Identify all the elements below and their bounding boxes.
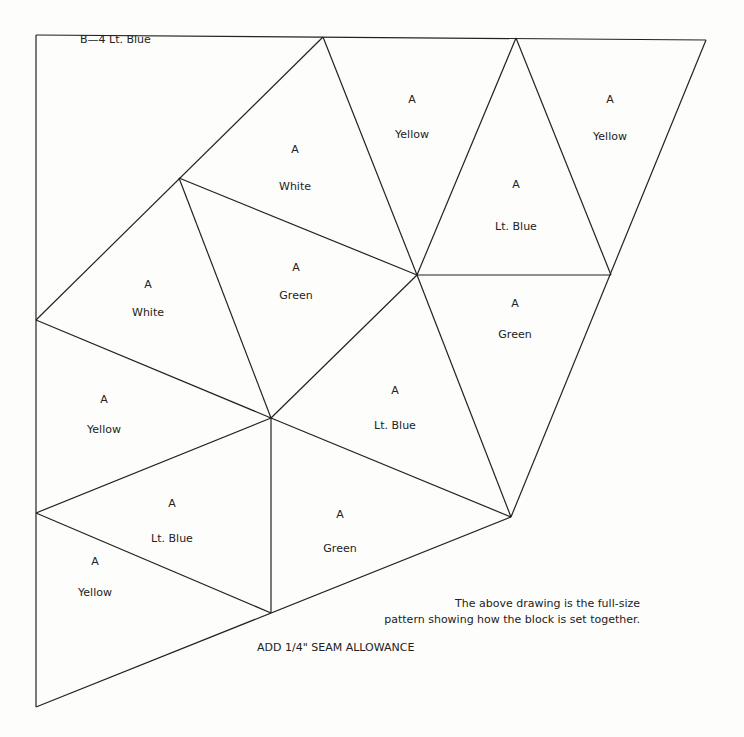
piece-color: Lt. Blue bbox=[151, 532, 193, 545]
piece-color: Lt. Blue bbox=[495, 220, 537, 233]
piece-letter: A bbox=[408, 93, 416, 106]
block-title: B—4 Lt. Blue bbox=[80, 33, 151, 46]
piece-letter: A bbox=[606, 93, 614, 106]
pattern-note: The above drawing is the full-size patte… bbox=[360, 596, 640, 628]
piece-letter: A bbox=[292, 261, 300, 274]
piece-letter: A bbox=[100, 393, 108, 406]
piece-color: Green bbox=[323, 542, 356, 555]
piece-letter: A bbox=[168, 497, 176, 510]
piece-letter: A bbox=[91, 555, 99, 568]
seam-allowance-note: ADD 1/4" SEAM ALLOWANCE bbox=[257, 641, 414, 654]
piece-color: White bbox=[279, 180, 311, 193]
piece-letter: A bbox=[512, 178, 520, 191]
piece-color: Green bbox=[498, 328, 531, 341]
piece-letter: A bbox=[144, 278, 152, 291]
piece-letter: A bbox=[391, 384, 399, 397]
piece-color: Yellow bbox=[593, 130, 627, 143]
piece-letter: A bbox=[511, 297, 519, 310]
note-line-1: The above drawing is the full-size bbox=[360, 596, 640, 612]
note-line-2: pattern showing how the block is set tog… bbox=[360, 612, 640, 628]
piece-color: Yellow bbox=[78, 586, 112, 599]
piece-color: Green bbox=[279, 289, 312, 302]
piece-letter: A bbox=[291, 143, 299, 156]
piece-color: Yellow bbox=[87, 423, 121, 436]
piece-letter: A bbox=[336, 508, 344, 521]
piece-color: Yellow bbox=[395, 128, 429, 141]
piece-color: White bbox=[132, 306, 164, 319]
piece-color: Lt. Blue bbox=[374, 419, 416, 432]
